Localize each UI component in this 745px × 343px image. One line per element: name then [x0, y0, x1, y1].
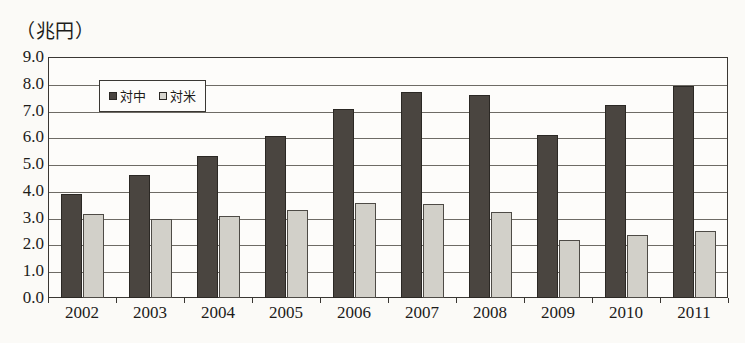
- x-axis-tick-label: 2010: [609, 303, 643, 323]
- y-axis-tick-label: 1.0: [0, 261, 44, 281]
- legend-item[interactable]: 対米: [159, 86, 196, 105]
- bar[interactable]: [219, 216, 240, 298]
- bar[interactable]: [469, 95, 490, 299]
- x-axis-tick-label: 2008: [473, 303, 507, 323]
- bar-group: [660, 57, 728, 298]
- y-axis-tick-label: 2.0: [0, 234, 44, 254]
- x-axis-tick-label: 2003: [133, 303, 167, 323]
- bar-group: [524, 57, 592, 298]
- bar[interactable]: [265, 136, 286, 298]
- bar-group: [592, 57, 660, 298]
- bar[interactable]: [61, 194, 82, 298]
- x-axis-tick: [728, 298, 729, 303]
- bar[interactable]: [197, 156, 218, 298]
- legend-swatch-icon: [159, 92, 167, 100]
- bar[interactable]: [129, 175, 150, 298]
- y-axis-tick-label: 0.0: [0, 288, 44, 308]
- y-axis-labels: 9.08.07.06.05.04.03.02.01.00.0: [0, 57, 44, 298]
- bar[interactable]: [333, 109, 354, 298]
- y-axis-tick-label: 8.0: [0, 74, 44, 94]
- bar[interactable]: [627, 235, 648, 298]
- bar[interactable]: [559, 240, 580, 298]
- chart-legend: 対中対米: [99, 80, 206, 112]
- y-axis-tick-label: 6.0: [0, 127, 44, 147]
- bar[interactable]: [355, 203, 376, 298]
- x-axis-tick-label: 2011: [677, 303, 710, 323]
- x-axis-tick-label: 2002: [65, 303, 99, 323]
- bar-group: [252, 57, 320, 298]
- bar[interactable]: [151, 219, 172, 298]
- y-axis-tick-label: 9.0: [0, 47, 44, 67]
- bar-group: [456, 57, 524, 298]
- bar[interactable]: [605, 105, 626, 298]
- bar[interactable]: [491, 212, 512, 298]
- bar[interactable]: [673, 86, 694, 298]
- x-axis-tick-label: 2005: [269, 303, 303, 323]
- legend-label: 対米: [170, 86, 196, 105]
- x-axis-tick-label: 2006: [337, 303, 371, 323]
- x-axis-labels: 2002200320042005200620072008200920102011: [48, 303, 728, 333]
- y-axis-tick-label: 3.0: [0, 208, 44, 228]
- y-axis-tick-label: 5.0: [0, 154, 44, 174]
- x-axis-tick-label: 2007: [405, 303, 439, 323]
- bar[interactable]: [537, 135, 558, 298]
- legend-swatch-icon: [109, 92, 117, 100]
- bar[interactable]: [287, 210, 308, 298]
- x-axis-tick-label: 2004: [201, 303, 235, 323]
- legend-label: 対中: [120, 86, 146, 105]
- x-axis-tick-label: 2009: [541, 303, 575, 323]
- bar-group: [388, 57, 456, 298]
- bar[interactable]: [83, 214, 104, 298]
- bar[interactable]: [695, 231, 716, 298]
- legend-item[interactable]: 対中: [109, 86, 146, 105]
- bar[interactable]: [401, 92, 422, 298]
- bar[interactable]: [423, 204, 444, 298]
- chart-page: （兆円） 9.08.07.06.05.04.03.02.01.00.0 2002…: [0, 0, 745, 343]
- y-axis-tick-label: 7.0: [0, 101, 44, 121]
- bar-group: [320, 57, 388, 298]
- axis-unit-title: （兆円）: [16, 16, 94, 43]
- y-axis-tick-label: 4.0: [0, 181, 44, 201]
